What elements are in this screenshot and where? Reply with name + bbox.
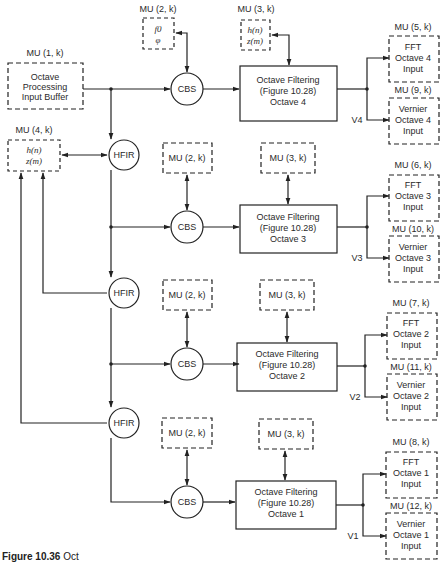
hfir-memory-label: MU (4, k) [16, 125, 53, 135]
input-buffer-mu-label: MU (1, k) [27, 48, 64, 58]
vernier-box-text: Vernier [397, 380, 426, 390]
coef-memory-label: MU (2, k) [169, 153, 206, 163]
octave-filter-text: Octave 2 [269, 371, 305, 381]
octave-filter-text: (Figure 10.28) [258, 498, 315, 508]
vernier-mu-label: MU (11, k) [390, 362, 431, 372]
octave-filter-text: (Figure 10.28) [260, 223, 317, 233]
input-buffer-line: Processing [23, 82, 68, 92]
vernier-mu-label: MU (10, k) [392, 224, 434, 234]
fft-mu-label: MU (6, k) [395, 160, 432, 170]
octave-filter-text: Octave Filtering [255, 349, 318, 359]
octave-filter-text: Octave Filtering [256, 75, 319, 85]
coef-memory-top-label: MU (2, k) [140, 4, 177, 14]
octave-filter-text: (Figure 10.28) [259, 360, 316, 370]
fft-mu-label: MU (7, k) [393, 298, 430, 308]
v-output-label: V2 [349, 392, 360, 402]
figure-caption-text: Oct [63, 551, 79, 562]
cbs-label: CBS [178, 359, 197, 369]
coef-memory-label: MU (2, k) [169, 428, 206, 438]
octave-filter-text: Octave 3 [270, 234, 306, 244]
vernier-box-text: Vernier [397, 519, 426, 529]
vernier-box-text: Input [403, 126, 424, 136]
octave-filter-text: Octave 4 [270, 97, 306, 107]
fft-box-text: Octave 3 [395, 191, 431, 201]
filter-memory-label: MU (3, k) [270, 153, 307, 163]
fft-box-text: Octave 4 [395, 53, 431, 63]
v-output-label: V1 [347, 531, 358, 541]
vernier-box-text: Input [403, 264, 424, 274]
v-output-label: V3 [351, 253, 362, 263]
fft-box-text: Input [403, 64, 424, 74]
octave-filter-text: Octave Filtering [256, 212, 319, 222]
vernier-box-text: Octave 2 [393, 391, 429, 401]
v-output-label: V4 [351, 115, 362, 125]
zm-symbol: z(m) [25, 156, 42, 166]
fft-box-text: Input [401, 340, 422, 350]
octave-filter-text: Octave 1 [268, 509, 304, 519]
phi-symbol: φ [156, 35, 161, 45]
vernier-box-text: Vernier [399, 242, 428, 252]
hfir-label: HFIR [114, 418, 135, 428]
vernier-box-text: Input [401, 402, 422, 412]
hn-symbol: h(n) [27, 145, 42, 155]
fft-box-text: Octave 2 [393, 329, 429, 339]
fft-box-text: Input [403, 202, 424, 212]
coef-memory-label: MU (2, k) [169, 290, 206, 300]
fft-box-text: Octave 1 [393, 468, 429, 478]
vernier-box-text: Octave 1 [393, 530, 429, 540]
cbs-label: CBS [178, 497, 197, 507]
cbs-label: CBS [178, 222, 197, 232]
fft-mu-label: MU (8, k) [393, 437, 430, 447]
figure-number: Figure 10.36 [2, 551, 60, 562]
input-buffer-line: Octave [31, 72, 60, 82]
fft-mu-label: MU (5, k) [395, 22, 432, 32]
filter-memory-label: MU (3, k) [268, 429, 305, 439]
octave-filter-text: Octave Filtering [254, 487, 317, 497]
figure-caption: Figure 10.36 Oct [2, 551, 79, 562]
fft-box-text: FFT [405, 180, 422, 190]
vernier-box-text: Vernier [399, 104, 428, 114]
fft-box-text: Input [401, 479, 422, 489]
hfir-label: HFIR [114, 150, 135, 160]
vernier-box-text: Octave 3 [395, 253, 431, 263]
zm-symbol: z(m) [246, 36, 263, 46]
vernier-box-text: Input [401, 541, 422, 551]
filter-memory-top-label: MU (3, k) [238, 4, 275, 14]
cbs-label: CBS [178, 84, 197, 94]
vernier-mu-label: MU (12, k) [390, 501, 432, 511]
filter-memory-label: MU (3, k) [269, 290, 306, 300]
fft-box-text: FFT [403, 457, 420, 467]
fft-box-text: FFT [403, 318, 420, 328]
input-buffer-line: Input Buffer [22, 92, 68, 102]
octave-filter-text: (Figure 10.28) [260, 86, 317, 96]
vernier-box-text: Octave 4 [395, 115, 431, 125]
hn-symbol: h(n) [248, 25, 263, 35]
vernier-mu-label: MU (9, k) [395, 85, 432, 95]
octave-processing-diagram: MU (1, k) Octave Processing Input Buffer… [0, 0, 445, 565]
fft-box-text: FFT [405, 42, 422, 52]
hfir-label: HFIR [114, 288, 135, 298]
f0-symbol: f0 [154, 24, 162, 34]
